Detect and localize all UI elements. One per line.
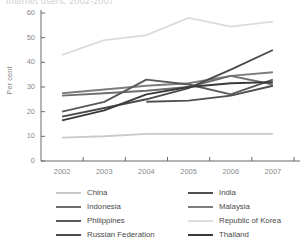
legend-swatch-icon — [188, 234, 213, 236]
legend-label: Philippines — [87, 217, 125, 225]
legend-item[interactable]: India — [188, 186, 281, 200]
y-tick-label: 10 — [19, 131, 35, 140]
y-tick-label: 50 — [19, 33, 35, 42]
legend-label: Republic of Korea — [219, 217, 281, 225]
legend-item[interactable]: Philippines — [56, 214, 155, 228]
legend-swatch-icon — [188, 220, 213, 222]
y-tick-label: 0 — [19, 156, 35, 165]
legend-item[interactable]: Indonesia — [56, 200, 155, 214]
chart-legend: ChinaIndonesiaPhilippinesRussian Federat… — [0, 186, 305, 250]
legend-swatch-icon — [56, 234, 81, 236]
legend-label: Malaysia — [219, 203, 250, 211]
legend-swatch-icon — [188, 192, 213, 194]
legend-label: China — [87, 189, 107, 197]
x-tick-label: 2003 — [83, 167, 125, 176]
legend-item[interactable]: Russian Federation — [56, 228, 155, 242]
legend-label: Indonesia — [87, 203, 121, 211]
legend-item[interactable]: Malaysia — [188, 200, 281, 214]
legend-label: Russian Federation — [87, 231, 155, 239]
y-tick-label: 60 — [19, 8, 35, 17]
y-tick-label: 20 — [19, 107, 35, 116]
series-line — [62, 134, 273, 138]
x-tick-label: 2006 — [210, 167, 252, 176]
chart-page: Internet users, 2002-2007 Per cent 01020… — [0, 0, 305, 250]
plot-area: Per cent 0102030405060200220032004200520… — [0, 0, 305, 175]
legend-item[interactable]: Republic of Korea — [188, 214, 281, 228]
legend-swatch-icon — [56, 220, 81, 222]
legend-swatch-icon — [56, 206, 81, 208]
legend-column-left: ChinaIndonesiaPhilippinesRussian Federat… — [56, 186, 155, 242]
series-line — [62, 18, 273, 55]
line-chart-svg — [0, 0, 305, 175]
y-tick-label: 30 — [19, 82, 35, 91]
legend-label: India — [219, 189, 236, 197]
y-tick-label: 40 — [19, 57, 35, 66]
x-tick-label: 2002 — [41, 167, 83, 176]
legend-label: Thailand — [219, 231, 249, 239]
legend-swatch-icon — [56, 192, 81, 194]
legend-item[interactable]: Thailand — [188, 228, 281, 242]
legend-column-right: IndiaMalaysiaRepublic of KoreaThailand — [188, 186, 281, 242]
legend-item[interactable]: China — [56, 186, 155, 200]
x-tick-label: 2004 — [125, 167, 167, 176]
legend-swatch-icon — [188, 206, 213, 208]
x-tick-label: 2007 — [252, 167, 294, 176]
x-tick-label: 2005 — [168, 167, 210, 176]
